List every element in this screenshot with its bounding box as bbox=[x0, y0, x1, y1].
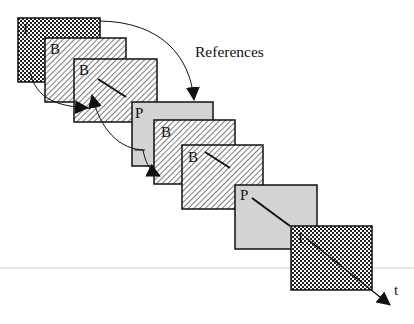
frame-label: I bbox=[298, 230, 303, 246]
frame-label: B bbox=[50, 41, 60, 57]
frame-label: P bbox=[240, 187, 248, 203]
frame-label: B bbox=[161, 124, 171, 140]
time-axis-label: t bbox=[394, 282, 399, 298]
frame-label: P bbox=[135, 105, 143, 121]
frame-label: I bbox=[23, 21, 28, 37]
frame-label: B bbox=[79, 62, 89, 78]
references-label: References bbox=[195, 43, 264, 60]
gop-diagram: I B B P B B P I t References bbox=[0, 0, 414, 324]
frame-label: B bbox=[188, 149, 198, 165]
